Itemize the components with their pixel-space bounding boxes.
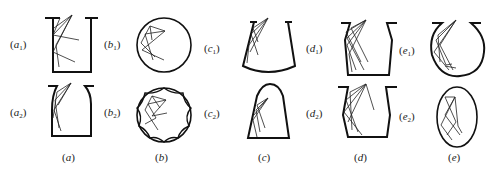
svg-text:(a2): (a2) — [10, 106, 27, 120]
label-e1: (e1) — [399, 44, 415, 58]
label-d1: (d1) — [306, 42, 323, 56]
label-a2: (a2) — [10, 106, 27, 120]
svg-text:(d2): (d2) — [306, 107, 323, 121]
caption-d: (d) — [354, 151, 367, 164]
shape-a2 — [48, 83, 94, 136]
caption-b: (b) — [155, 151, 168, 164]
svg-text:(c1): (c1) — [204, 42, 220, 56]
svg-text:(a1): (a1) — [10, 38, 27, 52]
shape-e1 — [431, 20, 484, 76]
shape-c2 — [248, 84, 289, 138]
caption-a: (a) — [62, 151, 75, 164]
shape-a1 — [45, 15, 98, 72]
shape-d1 — [341, 20, 397, 75]
svg-text:(c2): (c2) — [204, 107, 220, 121]
label-c2: (c2) — [204, 107, 220, 121]
svg-text:(e1): (e1) — [399, 44, 415, 58]
label-e2: (e2) — [399, 110, 415, 124]
label-b1: (b1) — [104, 38, 121, 52]
caption-e: (e) — [448, 151, 461, 164]
caption-c: (c) — [258, 151, 271, 164]
shape-e2 — [437, 87, 477, 147]
label-b2: (b2) — [104, 106, 121, 120]
svg-text:(d1): (d1) — [306, 42, 323, 56]
svg-text:(b2): (b2) — [104, 106, 121, 120]
svg-text:(b1): (b1) — [104, 38, 121, 52]
label-c1: (c1) — [204, 42, 220, 56]
shape-c1 — [243, 18, 295, 72]
label-a1: (a1) — [10, 38, 27, 52]
svg-text:(e2): (e2) — [399, 110, 415, 124]
shape-b1 — [137, 18, 191, 72]
shape-b2 — [137, 88, 191, 142]
label-d2: (d2) — [306, 107, 323, 121]
ray-reflection-diagram: (a1) (a2) (b1) (b2) (c1) (c2) (d1) (d2) … — [0, 0, 498, 176]
shape-d2 — [338, 84, 397, 137]
